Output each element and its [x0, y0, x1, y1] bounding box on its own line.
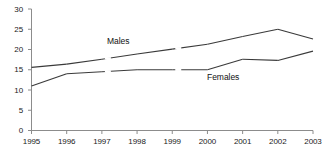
series-segment [278, 51, 313, 60]
x-tick-label: 2003 [298, 137, 326, 146]
x-tick-label: 2000 [192, 137, 222, 146]
series-segment [137, 49, 172, 54]
series-males [32, 29, 314, 67]
x-tick-label: 1996 [52, 137, 82, 146]
series-segment [243, 59, 278, 60]
x-tick-label: 1999 [157, 137, 187, 146]
series-segment [207, 59, 242, 70]
y-tick-label: 0 [5, 126, 23, 135]
x-tick-label: 2001 [228, 137, 258, 146]
series-segment [207, 37, 242, 45]
y-tick-label: 10 [5, 86, 23, 95]
y-tick-label: 25 [5, 25, 23, 34]
x-tick-label: 1998 [122, 137, 152, 146]
x-tick-label: 1997 [87, 137, 117, 146]
y-tick-label: 20 [5, 45, 23, 54]
y-tick-label: 30 [5, 5, 23, 14]
y-tick-label: 15 [5, 65, 23, 74]
series-segment [67, 72, 102, 74]
series-segment [32, 64, 67, 67]
series-label-males: Males [107, 36, 129, 46]
x-tick-label: 1995 [17, 137, 47, 146]
y-tick-label: 5 [5, 106, 23, 115]
series-label-females: Females [207, 72, 239, 82]
series-segment [243, 29, 278, 36]
chart-series-group [32, 29, 314, 86]
series-segment [278, 29, 313, 39]
x-axis-ticks [32, 131, 314, 135]
series-segment [32, 74, 67, 86]
series-females [32, 51, 314, 86]
y-axis-ticks [28, 9, 32, 131]
chart-axes [28, 9, 313, 134]
x-tick-label: 2002 [263, 137, 293, 146]
series-segment [67, 59, 102, 64]
